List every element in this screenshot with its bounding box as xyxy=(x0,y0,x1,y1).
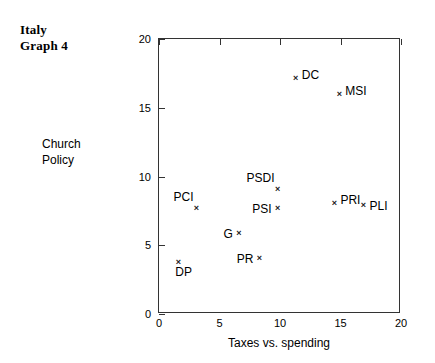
chart-title-line-2: Graph 4 xyxy=(20,38,68,54)
x-axis-tick-top xyxy=(220,39,221,45)
data-point-label: PCI xyxy=(173,191,193,203)
y-axis-title: Church Policy xyxy=(42,136,81,168)
data-point-marker-x-icon: × xyxy=(275,184,280,193)
x-axis-tick-top xyxy=(159,39,160,45)
x-axis-tick-top xyxy=(280,39,281,45)
y-axis-tick-label: 5 xyxy=(145,239,151,251)
y-axis-tick-label: 0 xyxy=(145,308,151,320)
x-axis-title: Taxes vs. spending xyxy=(158,336,400,350)
data-point-marker-x-icon: × xyxy=(194,204,199,213)
data-point-marker-x-icon: × xyxy=(236,228,241,237)
data-point-marker-x-icon: × xyxy=(257,253,262,262)
y-axis-tick xyxy=(159,177,165,178)
data-point-marker-x-icon: × xyxy=(337,90,342,99)
x-axis-tick-label: 15 xyxy=(334,317,346,329)
plot-area: 0510152005101520×DC×MSI×PSDI×PSI×PCI×PRI… xyxy=(158,38,400,313)
data-point-label: PR xyxy=(237,253,254,265)
x-axis-tick-top xyxy=(341,39,342,45)
data-point-label: DP xyxy=(175,266,192,278)
scatter-chart-figure: Italy Graph 4 Church Policy Taxes vs. sp… xyxy=(0,0,435,363)
data-point-marker-x-icon: × xyxy=(332,198,337,207)
x-axis-tick-label: 10 xyxy=(274,317,286,329)
y-axis-tick xyxy=(159,245,165,246)
data-point-label: MSI xyxy=(345,85,366,97)
chart-title: Italy Graph 4 xyxy=(20,22,68,54)
data-point-marker-x-icon: × xyxy=(275,204,280,213)
y-axis-tick-label: 10 xyxy=(139,171,151,183)
data-point-label: G xyxy=(224,228,233,240)
y-axis-title-line-2: Policy xyxy=(42,152,81,168)
x-axis-tick-top xyxy=(401,39,402,45)
y-axis-tick xyxy=(159,314,165,315)
data-point-label: PSI xyxy=(252,203,271,215)
chart-title-line-1: Italy xyxy=(20,22,68,38)
x-axis-tick-label: 20 xyxy=(395,317,407,329)
data-point-marker-x-icon: × xyxy=(361,201,366,210)
y-axis-tick-label: 15 xyxy=(139,102,151,114)
y-axis-tick xyxy=(159,108,165,109)
data-point-label: PRI xyxy=(340,194,360,206)
y-axis-title-line-1: Church xyxy=(42,136,81,152)
y-axis-tick-label: 20 xyxy=(139,33,151,45)
data-point-label: PSDI xyxy=(247,172,275,184)
data-point-label: PLI xyxy=(369,200,387,212)
data-point-label: DC xyxy=(302,69,319,81)
x-axis-tick-label: 5 xyxy=(216,317,222,329)
x-axis-tick-label: 0 xyxy=(156,317,162,329)
data-point-marker-x-icon: × xyxy=(293,73,298,82)
plot-inner: 0510152005101520×DC×MSI×PSDI×PSI×PCI×PRI… xyxy=(159,39,399,312)
